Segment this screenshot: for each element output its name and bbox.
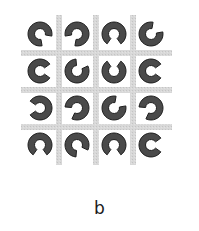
landolt-ring-icon-r1-c2 bbox=[65, 22, 89, 46]
grid-line-horizontal-1 bbox=[21, 50, 172, 56]
landolt-ring-icon-r3-c3 bbox=[102, 96, 126, 120]
landolt-ring-icon-r4-c3 bbox=[102, 133, 126, 155]
landolt-ring-icon-r4-c2 bbox=[65, 133, 89, 157]
grid-line-horizontal-2 bbox=[21, 87, 172, 93]
figure-caption: b bbox=[0, 198, 199, 218]
landolt-ring-icon-r3-c1 bbox=[30, 96, 52, 120]
landolt-ring-icon-r3-c2 bbox=[65, 96, 89, 120]
landolt-ring-grid-figure bbox=[0, 0, 199, 231]
landolt-ring-icon-r2-c2 bbox=[65, 59, 89, 83]
landolt-ring-icon-r2-c3 bbox=[102, 61, 126, 83]
landolt-ring-icon-r1-c1 bbox=[28, 22, 52, 46]
landolt-ring-icon-r2-c4 bbox=[139, 59, 161, 83]
landolt-ring-icon-r2-c1 bbox=[28, 59, 50, 83]
grid-lines bbox=[21, 15, 172, 165]
landolt-ring-icon-r1-c3 bbox=[102, 22, 126, 44]
grid-line-horizontal-3 bbox=[21, 124, 172, 130]
landolt-ring-icon-r3-c4 bbox=[139, 96, 163, 120]
landolt-ring-icon-r1-c4 bbox=[139, 22, 163, 46]
landolt-ring-icon-r4-c4 bbox=[139, 133, 161, 157]
landolt-ring-icon-r4-c1 bbox=[28, 133, 52, 155]
